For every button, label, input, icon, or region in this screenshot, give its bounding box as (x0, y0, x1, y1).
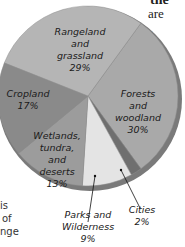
svg-text:2%: 2% (134, 216, 149, 227)
svg-text:Parks and: Parks and (65, 209, 113, 220)
svg-text:tundra,: tundra, (40, 142, 75, 153)
svg-text:and: and (71, 38, 90, 49)
svg-text:17%: 17% (17, 100, 38, 111)
svg-text:Wilderness: Wilderness (62, 221, 114, 232)
svg-text:Rangeland: Rangeland (55, 26, 107, 37)
svg-text:deserts: deserts (39, 166, 74, 177)
svg-text:30%: 30% (127, 124, 148, 135)
svg-text:and: and (48, 154, 67, 165)
svg-text:Wetlands,: Wetlands, (33, 130, 80, 141)
label-cities: Cities 2% (129, 204, 155, 227)
svg-text:9%: 9% (80, 233, 95, 244)
svg-text:and: and (129, 100, 148, 111)
pie-chart: Rangeland and grassland 29% Forests and … (0, 0, 185, 247)
svg-text:Forests: Forests (121, 88, 156, 99)
svg-text:13%: 13% (46, 178, 67, 189)
parks-leader-dot (94, 175, 96, 177)
svg-text:grassland: grassland (57, 50, 104, 61)
svg-text:Cities: Cities (129, 204, 155, 215)
label-parks: Parks and Wilderness 9% (62, 209, 114, 244)
svg-text:Cropland: Cropland (7, 88, 51, 99)
svg-text:woodland: woodland (115, 112, 162, 123)
svg-text:29%: 29% (69, 62, 90, 73)
cities-leader-dot (120, 169, 122, 171)
